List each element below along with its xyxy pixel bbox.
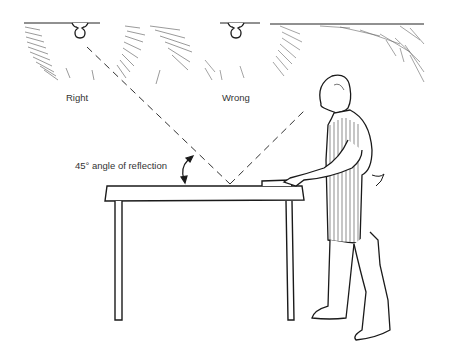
label-wrong: Wrong (222, 92, 250, 103)
angle-arrow (181, 156, 193, 183)
work-table (105, 180, 304, 320)
label-right: Right (66, 92, 88, 103)
label-angle-of-reflection: 45° angle of reflection (75, 160, 167, 171)
light-bulb-right-icon (72, 23, 88, 38)
light-bulb-wrong-icon (228, 23, 244, 38)
light-glow-hatching-left (25, 26, 192, 84)
illustration (0, 0, 449, 356)
